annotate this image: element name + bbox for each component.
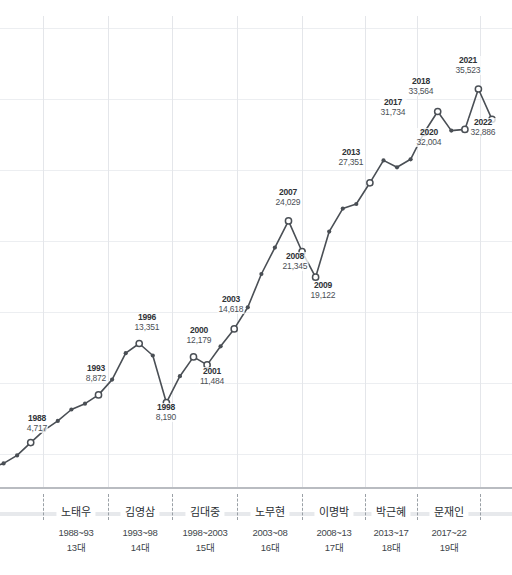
data-point: [273, 246, 277, 250]
data-point-labeled: [475, 86, 481, 92]
data-point-labeled: [285, 218, 291, 224]
data-point: [409, 157, 413, 161]
point-label-value: 19,122: [311, 291, 336, 301]
data-point: [381, 158, 385, 162]
president-term-number: 17대: [314, 540, 353, 554]
point-label: 201327,351: [338, 148, 365, 167]
president-term-number: 16대: [250, 540, 289, 554]
president-divider: [43, 494, 44, 520]
president-term-number: 15대: [182, 540, 227, 554]
president-divider: [172, 494, 173, 520]
clipped-header-text: [404, 0, 504, 11]
point-label-value: 32,004: [417, 138, 442, 148]
president-term-number: 19대: [429, 540, 468, 554]
president-cell[interactable]: 노무현2003~0816대: [250, 502, 289, 554]
data-point: [83, 402, 87, 406]
data-point: [178, 374, 182, 378]
data-point: [15, 453, 19, 457]
point-label: 19884,717: [26, 414, 48, 433]
data-point: [56, 419, 60, 423]
data-point: [327, 230, 331, 234]
line-series: [0, 16, 512, 488]
point-label-value: 35,523: [456, 66, 481, 76]
president-name: 문재인: [429, 503, 468, 519]
president-cell[interactable]: 김대중1998~200315대: [182, 502, 227, 554]
president-divider: [417, 494, 418, 520]
data-point: [110, 378, 114, 382]
president-cell[interactable]: 박근혜2013~1718대: [371, 502, 410, 554]
point-label: 200111,484: [199, 367, 225, 386]
point-label-value: 27,351: [339, 158, 364, 168]
point-label: 200821,345: [282, 252, 309, 271]
point-label: 202232,886: [470, 118, 497, 137]
point-label-value: 32,886: [471, 128, 496, 138]
point-label-value: 14,618: [219, 305, 244, 315]
president-divider: [302, 494, 303, 520]
point-label: 201833,564: [408, 77, 435, 96]
president-years: 2008~13: [314, 527, 353, 538]
data-point: [395, 165, 399, 169]
data-point-labeled: [462, 126, 468, 132]
president-term-number: 18대: [371, 540, 410, 554]
president-axis: 노태우1988~9313대김영삼1993~9814대김대중1998~200315…: [0, 494, 512, 575]
data-point-labeled: [367, 180, 373, 186]
president-divider: [237, 494, 238, 520]
point-label-value: 31,734: [381, 108, 406, 118]
data-point: [246, 305, 250, 309]
data-point: [124, 351, 128, 355]
president-name: 김영삼: [120, 503, 159, 519]
point-label-value: 21,345: [283, 262, 308, 272]
president-term-number: 14대: [120, 540, 159, 554]
data-point: [219, 344, 223, 348]
data-point: [449, 129, 453, 133]
president-term-number: 13대: [56, 540, 95, 554]
president-divider: [108, 494, 109, 520]
point-label-value: 11,484: [200, 377, 224, 387]
president-divider: [365, 494, 366, 520]
data-point-labeled: [95, 392, 101, 398]
data-point-labeled: [136, 340, 142, 346]
data-point: [259, 272, 263, 276]
point-label: 201731,734: [380, 98, 407, 117]
point-label: 202135,523: [455, 56, 482, 75]
data-point: [151, 353, 155, 357]
president-cell[interactable]: 노태우1988~9313대: [56, 502, 95, 554]
chart-page: 19884,71719938,872199613,35119988,190200…: [0, 0, 512, 575]
point-label-value: 33,564: [409, 87, 434, 97]
point-label: 19988,190: [155, 403, 177, 422]
point-label-value: 4,717: [27, 424, 47, 434]
point-label: 199613,351: [134, 313, 161, 332]
president-divider: [480, 494, 481, 520]
president-cell[interactable]: 김영삼1993~9814대: [120, 502, 159, 554]
president-years: 2003~08: [250, 527, 289, 538]
data-point: [2, 461, 6, 465]
data-point: [354, 202, 358, 206]
point-label-value: 24,029: [276, 198, 301, 208]
point-label-value: 12,179: [187, 336, 212, 346]
president-years: 1993~98: [120, 527, 159, 538]
point-label: 200724,029: [275, 188, 302, 207]
data-point-labeled: [28, 440, 34, 446]
president-years: 2017~22: [429, 527, 468, 538]
point-label: 19938,872: [85, 364, 107, 383]
president-cell[interactable]: 이명박2008~1317대: [314, 502, 353, 554]
x-axis-baseline: [0, 487, 512, 489]
president-years: 2013~17: [371, 527, 410, 538]
point-label-value: 13,351: [135, 323, 160, 333]
data-point-labeled: [231, 326, 237, 332]
president-cell[interactable]: 문재인2017~2219대: [429, 502, 468, 554]
president-name: 노태우: [56, 503, 95, 519]
data-point-labeled: [435, 108, 441, 114]
point-label: 200314,618: [218, 295, 245, 314]
point-label-value: 8,872: [86, 374, 106, 384]
president-name: 김대중: [185, 503, 224, 519]
president-name: 노무현: [250, 503, 289, 519]
chart-plot-area: 19884,71719938,872199613,35119988,190200…: [0, 16, 512, 488]
point-label: 202032,004: [416, 128, 443, 147]
president-name: 이명박: [314, 503, 353, 519]
point-label: 200919,122: [310, 281, 337, 300]
data-point-labeled: [190, 354, 196, 360]
data-point: [69, 407, 73, 411]
president-years: 1998~2003: [182, 527, 227, 538]
point-label: 200012,179: [186, 326, 213, 345]
